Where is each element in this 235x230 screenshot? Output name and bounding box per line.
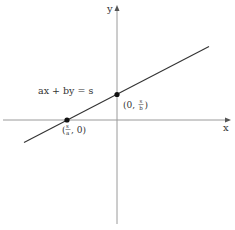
y-intercept-numerator: s [140, 98, 143, 104]
diagram-canvas: y x ax + by = s (0, s b ) ( s a , 0) [0, 0, 235, 230]
x-intercept-label: ( s a , 0) [62, 123, 86, 137]
x-intercept-close: , 0) [71, 125, 86, 135]
y-intercept-denominator: b [139, 105, 143, 111]
x-intercept-denominator: a [66, 130, 70, 136]
y-intercept-label: (0, s b ) [123, 98, 148, 112]
x-intercept-numerator: s [66, 123, 69, 129]
y-axis-arrow-icon [115, 5, 120, 11]
y-intercept-open: (0, [123, 100, 135, 110]
equation-label: ax + by = s [38, 85, 93, 96]
x-axis-label: x [223, 122, 229, 133]
y-intercept-point [114, 92, 119, 97]
y-axis-label: y [106, 3, 113, 14]
x-intercept-open: ( [62, 125, 66, 135]
y-intercept-close: ) [145, 100, 149, 110]
